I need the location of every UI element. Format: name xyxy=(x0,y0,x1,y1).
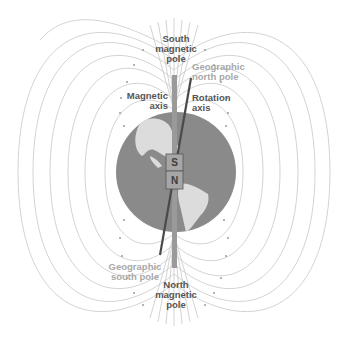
bar-magnet: S N xyxy=(166,154,183,189)
south-magnetic-pole-label: South magnetic pole xyxy=(154,34,198,64)
magnet-north-label: N xyxy=(171,175,178,186)
north-magnetic-pole-label: North magnetic pole xyxy=(154,280,198,310)
label-line: axis xyxy=(118,101,168,111)
rotation-axis-label: Rotation axis xyxy=(192,93,231,113)
magnet-south-label: S xyxy=(171,157,178,168)
label-line: axis xyxy=(192,103,231,113)
label-line: pole xyxy=(154,300,198,310)
geographic-north-pole-label: Geographic north pole xyxy=(192,62,245,82)
magnetic-axis-label: Magnetic axis xyxy=(118,91,168,111)
label-line: north pole xyxy=(192,72,245,82)
magnetic-field-diagram: S N South magnetic pole Geographic north… xyxy=(0,0,348,340)
geographic-south-pole-label: Geographic south pole xyxy=(107,262,163,282)
